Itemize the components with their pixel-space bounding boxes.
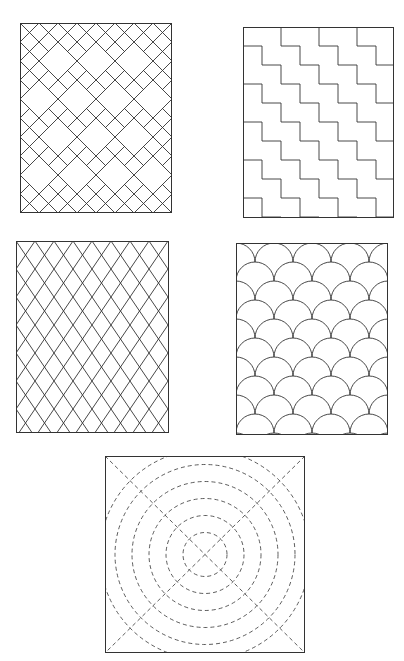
zigzag-steps-quilt-pattern (243, 27, 394, 218)
concentric-circles-quilt-pattern (105, 456, 305, 653)
pattern-diagonal-lattice (16, 241, 169, 433)
pattern-clamshell (236, 243, 388, 435)
pattern-zigzag-steps (243, 27, 394, 218)
clamshell-quilt-pattern (236, 243, 388, 435)
pattern-concentric-circles (105, 456, 305, 653)
pattern-cross-diamond (20, 23, 172, 213)
diagonal-lattice-quilt-pattern (16, 241, 169, 433)
cross-diamond-quilt-pattern (20, 23, 172, 213)
